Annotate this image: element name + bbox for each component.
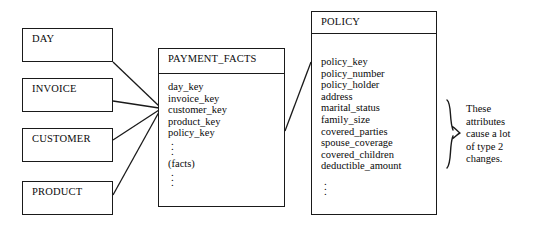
annotation-line: changes.: [466, 153, 510, 166]
annotation-line: of type 2: [466, 141, 510, 154]
diagram-canvas: DAY INVOICE CUSTOMER PRODUCT PAYMENT_FAC…: [0, 0, 539, 235]
annotation-line: These: [466, 103, 510, 116]
brace-icon: [447, 100, 460, 168]
annotation-line: cause a lot: [466, 128, 510, 141]
annotation-brace: [0, 0, 539, 235]
annotation-text: These attributes cause a lot of type 2 c…: [466, 103, 510, 166]
annotation-line: attributes: [466, 116, 510, 129]
